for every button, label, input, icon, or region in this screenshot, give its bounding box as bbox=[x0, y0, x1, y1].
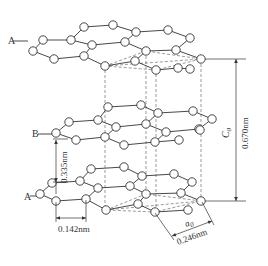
carbon-atom bbox=[137, 101, 145, 109]
carbon-atom bbox=[175, 136, 183, 144]
carbon-atom bbox=[29, 47, 37, 55]
carbon-atom bbox=[50, 55, 58, 63]
c0-length-label: 0.670nm bbox=[240, 117, 250, 149]
carbon-atom bbox=[152, 66, 160, 74]
carbon-atom bbox=[67, 36, 75, 44]
carbon-atom bbox=[162, 128, 170, 136]
carbon-bond bbox=[98, 186, 130, 188]
carbon-atom bbox=[88, 41, 96, 49]
carbon-atom bbox=[154, 109, 162, 117]
carbon-atom bbox=[151, 208, 159, 216]
interlayer-spacing-label: 0.335nm bbox=[59, 151, 69, 183]
carbon-bond bbox=[91, 167, 124, 169]
carbon-atom bbox=[197, 197, 205, 205]
layer-top: A bbox=[8, 21, 205, 74]
layer-bottom: A bbox=[24, 163, 205, 216]
carbon-bond bbox=[136, 30, 168, 32]
a0-symbol: a0 bbox=[183, 217, 195, 231]
carbon-atom bbox=[131, 57, 139, 65]
layer-label-middle: B bbox=[32, 128, 39, 139]
carbon-atom bbox=[186, 65, 194, 73]
carbon-atom bbox=[132, 28, 140, 36]
carbon-atom bbox=[174, 64, 182, 72]
layer-middle: B bbox=[32, 101, 216, 149]
carbon-bond bbox=[124, 142, 155, 145]
c0-symbol: C0 bbox=[220, 127, 233, 138]
carbon-bond bbox=[108, 105, 141, 107]
carbon-atom bbox=[164, 26, 172, 34]
carbon-atom bbox=[101, 133, 109, 141]
dimension-annotations: 0.335nm 0.142nm C0 0.670nm bbox=[53, 59, 250, 247]
carbon-atom bbox=[138, 172, 146, 180]
carbon-atom bbox=[80, 23, 88, 31]
carbon-bond bbox=[92, 42, 125, 45]
carbon-atom bbox=[188, 178, 196, 186]
carbon-atom bbox=[170, 170, 178, 178]
graphite-structure-diagram: ABA 0.335nm 0.142nm C0 bbox=[0, 0, 268, 266]
carbon-atom bbox=[142, 190, 150, 198]
carbon-atom bbox=[80, 52, 88, 60]
carbon-bond bbox=[166, 129, 199, 132]
unit-cell-diagonal bbox=[105, 59, 201, 66]
carbon-bond bbox=[142, 174, 174, 176]
carbon-atom bbox=[142, 120, 150, 128]
carbon-atom bbox=[76, 177, 84, 185]
carbon-bond bbox=[158, 111, 193, 113]
carbon-atom bbox=[177, 189, 185, 197]
carbon-atom bbox=[104, 103, 112, 111]
carbon-atom bbox=[109, 21, 117, 29]
a0-length-label: 0.246nm bbox=[175, 227, 208, 247]
carbon-atom bbox=[121, 38, 129, 46]
carbon-atom bbox=[186, 34, 194, 42]
carbon-atom bbox=[196, 126, 204, 134]
carbon-atom bbox=[48, 179, 56, 187]
layer-label-bottom: A bbox=[24, 191, 32, 202]
carbon-atom bbox=[65, 118, 73, 126]
carbon-atom bbox=[112, 123, 120, 131]
carbon-atom bbox=[102, 206, 110, 214]
carbon-atom bbox=[94, 184, 102, 192]
carbon-atom bbox=[142, 47, 150, 55]
carbon-atom bbox=[151, 138, 159, 146]
layer-label-top: A bbox=[8, 35, 16, 46]
carbon-atom bbox=[72, 136, 80, 144]
carbon-atom bbox=[36, 190, 44, 198]
bond-length-label: 0.142nm bbox=[58, 224, 90, 234]
carbon-bond bbox=[106, 204, 138, 210]
carbon-atom bbox=[52, 129, 60, 137]
carbon-atom bbox=[189, 107, 197, 115]
bond-length-dimension: 0.142nm bbox=[56, 200, 90, 234]
carbon-atom bbox=[197, 55, 205, 63]
carbon-atom bbox=[126, 182, 134, 190]
carbon-atom bbox=[87, 165, 95, 173]
carbon-atom bbox=[120, 141, 128, 149]
carbon-atom bbox=[134, 200, 142, 208]
carbon-atom bbox=[184, 206, 192, 214]
graphite-layers: ABA bbox=[8, 21, 216, 216]
carbon-atom bbox=[101, 62, 109, 70]
carbon-atom bbox=[172, 46, 180, 54]
carbon-atom bbox=[120, 163, 128, 171]
carbon-bond bbox=[146, 193, 181, 194]
carbon-atom bbox=[39, 36, 47, 44]
carbon-atom bbox=[94, 116, 102, 124]
carbon-atom bbox=[208, 115, 216, 123]
c0-dimension: C0 0.670nm bbox=[205, 59, 250, 201]
